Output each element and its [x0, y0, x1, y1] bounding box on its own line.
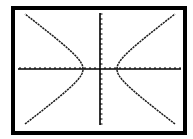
calculator-graph-screen — [0, 0, 193, 139]
